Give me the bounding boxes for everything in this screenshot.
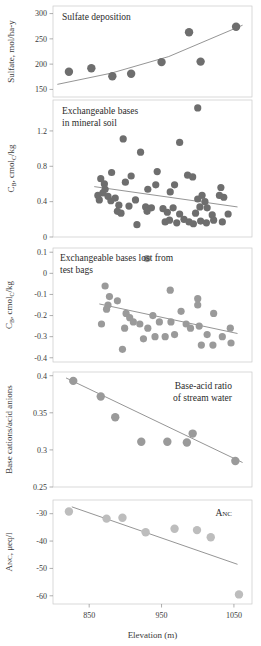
panel-base-acid-ratio-stream-water: 0.250.30.350.4Base-acid ratioof stream w…	[33, 372, 252, 492]
data-point	[149, 312, 156, 319]
y-tick-label: 300	[35, 9, 47, 18]
data-point	[163, 438, 171, 446]
multi-panel-scatter-figure: 150200250300Sulfate deposition00.40.81.2…	[0, 0, 261, 646]
y-axis-title: CB, cmolC/kg	[4, 280, 15, 329]
y-tick-label: -0.2	[34, 311, 47, 320]
y-tick-label: -0.4	[34, 354, 47, 363]
x-tick-label: 1050	[226, 611, 242, 620]
data-point	[122, 179, 129, 186]
data-point	[167, 318, 174, 325]
data-point	[227, 339, 234, 346]
data-point	[203, 219, 210, 226]
y-tick-label: -0.1	[34, 290, 47, 299]
data-point	[194, 295, 201, 302]
data-point	[140, 335, 147, 342]
y-tick-label: -40	[36, 537, 47, 546]
data-point	[69, 377, 77, 385]
data-point	[209, 342, 216, 349]
x-tick-label: 850	[83, 611, 95, 620]
data-point	[171, 331, 178, 338]
data-point	[227, 325, 234, 332]
data-point	[189, 173, 196, 180]
data-point	[219, 333, 226, 340]
panel-title: of stream water	[173, 393, 233, 403]
data-point	[167, 188, 174, 195]
data-point	[170, 525, 178, 533]
data-point	[207, 533, 215, 541]
y-axis-title: ANC, μeq/l	[4, 532, 14, 572]
y-tick-label: 200	[35, 60, 47, 69]
data-point	[225, 210, 232, 217]
y-tick-label: -50	[36, 564, 47, 573]
panel-title: ANC	[215, 508, 232, 518]
data-point	[118, 514, 126, 522]
data-point	[98, 320, 105, 327]
data-point	[102, 282, 109, 289]
data-point	[117, 210, 124, 217]
y-tick-label: 0.35	[33, 409, 47, 418]
data-point	[201, 198, 208, 205]
data-point	[137, 149, 144, 156]
data-point	[204, 331, 211, 338]
data-point	[65, 68, 73, 76]
data-point	[185, 28, 193, 36]
y-axis-title: Sulfate, mol/ha-y	[6, 20, 16, 83]
data-point	[171, 181, 178, 188]
data-point	[128, 172, 135, 179]
data-point	[136, 320, 143, 327]
y-tick-label: 0.1	[37, 248, 47, 257]
data-point	[154, 168, 161, 175]
y-tick-label: -30	[36, 509, 47, 518]
data-point	[151, 333, 158, 340]
data-point	[156, 318, 163, 325]
data-point	[144, 186, 151, 193]
panel-title: Exchangeable bases lost from	[60, 253, 174, 263]
data-point	[87, 64, 95, 72]
data-point	[108, 72, 116, 80]
data-point	[194, 301, 201, 308]
data-point	[220, 194, 227, 201]
data-point	[144, 325, 151, 332]
x-axis-title: Elevation (m)	[128, 630, 178, 640]
data-point	[137, 438, 145, 446]
panel-title: Exchangeable bases	[62, 106, 139, 116]
data-point	[196, 203, 203, 210]
data-point	[210, 310, 217, 317]
y-tick-label: 0	[43, 233, 47, 242]
y-tick-label: 250	[35, 35, 47, 44]
data-point	[173, 219, 180, 226]
panel-title: Base-acid ratio	[175, 381, 232, 391]
data-point	[96, 196, 103, 203]
y-tick-label: 0	[43, 269, 47, 278]
data-point	[235, 590, 243, 598]
data-point	[196, 323, 203, 330]
data-point	[133, 221, 140, 228]
figure-container: 150200250300Sulfate deposition00.40.81.2…	[0, 0, 261, 646]
y-tick-label: 150	[35, 85, 47, 94]
data-point	[97, 392, 105, 400]
data-point	[167, 287, 174, 294]
data-point	[119, 346, 126, 353]
data-point	[125, 202, 132, 209]
data-point	[177, 308, 184, 315]
y-tick-label: 1.2	[37, 127, 47, 136]
data-point	[232, 23, 240, 31]
y-tick-label: 0.3	[37, 446, 47, 455]
panel-title: in mineral soil	[62, 118, 117, 128]
data-point	[219, 218, 226, 225]
panel-exchangeable-bases-lost-test-bags: -0.4-0.3-0.2-0.100.1Exchangeable bases l…	[34, 248, 252, 363]
data-point	[106, 293, 113, 300]
data-point	[187, 325, 194, 332]
data-point	[204, 204, 211, 211]
data-point	[115, 202, 122, 209]
panel-sulfate-deposition: 150200250300Sulfate deposition	[35, 6, 252, 97]
y-tick-label: 0.25	[33, 483, 47, 492]
data-point	[102, 514, 110, 522]
y-tick-label: -60	[36, 592, 47, 601]
data-point	[198, 342, 205, 349]
data-point	[190, 220, 197, 227]
y-axis-title: Base cations/acid anions	[4, 385, 14, 474]
panel-title: test bags	[60, 265, 93, 275]
data-point	[130, 318, 137, 325]
y-axis-title: CB, cmolC/kg	[6, 144, 17, 193]
